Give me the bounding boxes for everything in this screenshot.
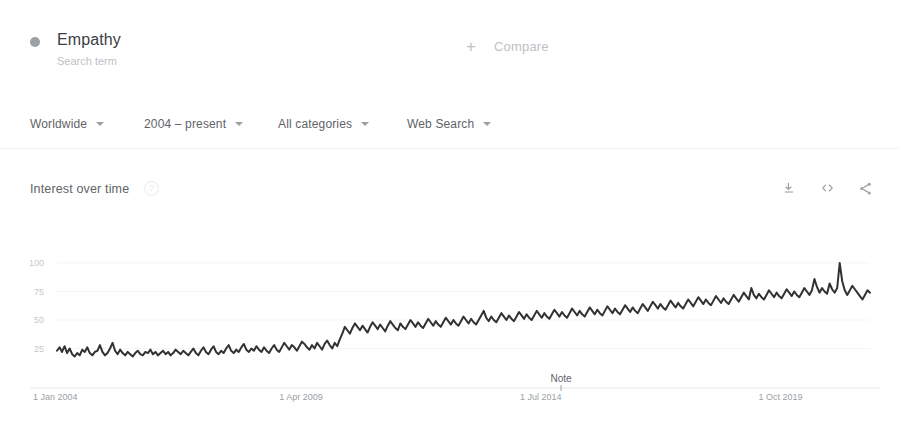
search-term-title[interactable]: Empathy bbox=[57, 30, 121, 50]
svg-text:1 Oct 2019: 1 Oct 2019 bbox=[759, 392, 803, 402]
svg-text:1 Jul 2014: 1 Jul 2014 bbox=[520, 392, 562, 402]
compare-label: Compare bbox=[494, 39, 549, 54]
term-color-dot bbox=[30, 37, 40, 47]
trends-line-chart: 255075100Note1 Jan 20041 Apr 20091 Jul 2… bbox=[0, 225, 899, 425]
filter-time-range[interactable]: 2004 – present bbox=[144, 117, 243, 131]
svg-text:75: 75 bbox=[34, 287, 44, 297]
chevron-down-icon bbox=[96, 122, 104, 126]
interest-over-time-chart[interactable]: 255075100Note1 Jan 20041 Apr 20091 Jul 2… bbox=[0, 225, 899, 425]
filter-search-type-label: Web Search bbox=[407, 117, 474, 131]
svg-text:100: 100 bbox=[29, 258, 44, 268]
svg-text:Note: Note bbox=[550, 373, 572, 384]
svg-text:1 Jan 2004: 1 Jan 2004 bbox=[33, 392, 78, 402]
search-term-header: Empathy Search term bbox=[30, 30, 121, 69]
section-title: Interest over time bbox=[30, 182, 129, 196]
embed-code-icon[interactable] bbox=[817, 178, 837, 198]
filter-category-label: All categories bbox=[278, 117, 352, 131]
svg-text:1 Apr 2009: 1 Apr 2009 bbox=[279, 392, 323, 402]
filter-region-label: Worldwide bbox=[30, 117, 87, 131]
download-icon[interactable] bbox=[779, 178, 799, 198]
svg-text:25: 25 bbox=[34, 344, 44, 354]
chevron-down-icon bbox=[235, 122, 243, 126]
chevron-down-icon bbox=[361, 122, 369, 126]
search-term-subtitle: Search term bbox=[57, 53, 121, 69]
term-text-group: Empathy Search term bbox=[57, 30, 121, 69]
svg-text:50: 50 bbox=[34, 315, 44, 325]
filter-bar: Worldwide 2004 – present All categories … bbox=[0, 104, 899, 149]
filter-category[interactable]: All categories bbox=[278, 117, 369, 131]
chevron-down-icon bbox=[483, 122, 491, 126]
help-icon[interactable]: ? bbox=[144, 181, 159, 196]
filter-time-range-label: 2004 – present bbox=[144, 117, 226, 131]
filter-search-type[interactable]: Web Search bbox=[407, 117, 491, 131]
filter-region[interactable]: Worldwide bbox=[30, 117, 104, 131]
share-icon[interactable] bbox=[855, 178, 875, 198]
chart-actions bbox=[779, 178, 875, 198]
compare-button[interactable]: + Compare bbox=[466, 38, 549, 55]
plus-icon: + bbox=[466, 38, 476, 55]
interest-over-time-header: Interest over time ? bbox=[0, 170, 899, 215]
